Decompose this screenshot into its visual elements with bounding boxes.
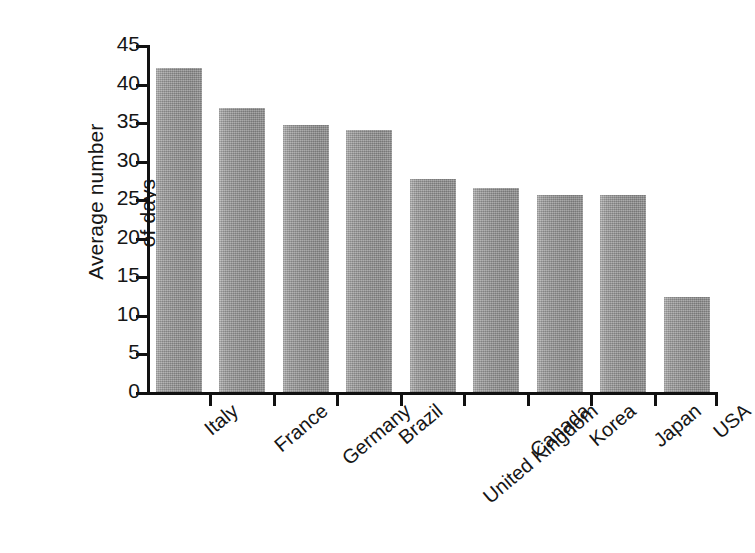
bar-chart: Average number of days 0 5 10 15 20 25 (0, 0, 755, 553)
bar-brazil (346, 130, 392, 392)
y-tick-label-20: 20 (117, 226, 140, 247)
bar-canada (473, 188, 519, 392)
bar-united-kingdom (410, 179, 456, 392)
y-axis-line (147, 45, 150, 392)
y-tick-label-40: 40 (117, 72, 140, 93)
y-tick-label-45: 45 (117, 33, 140, 54)
bar-germany (283, 125, 329, 392)
x-tick-mark-2 (273, 395, 276, 406)
bar-japan (600, 195, 646, 392)
y-axis-title: Average number of days (57, 73, 117, 353)
y-tick-label-25: 25 (117, 187, 140, 208)
bar-korea (537, 195, 583, 392)
x-tick-mark-8 (654, 395, 657, 406)
bar-italy (156, 68, 202, 392)
x-label-italy: Italy (201, 400, 242, 439)
x-tick-mark-6 (527, 395, 530, 406)
bar-france (219, 108, 265, 392)
x-tick-mark-5 (463, 395, 466, 406)
y-tick-label-30: 30 (117, 149, 140, 170)
x-tick-mark-1 (209, 395, 212, 406)
y-tick-label-0: 0 (128, 380, 140, 401)
y-tick-label-10: 10 (117, 303, 140, 324)
x-tick-mark-3 (336, 395, 339, 406)
x-label-usa: USA (710, 400, 754, 442)
y-tick-label-5: 5 (128, 341, 140, 362)
x-label-france: France (271, 400, 332, 455)
x-label-japan: Japan (650, 400, 705, 450)
x-tick-mark-9 (715, 395, 718, 406)
plot-area: 0 5 10 15 20 25 30 35 (147, 45, 718, 392)
y-tick-label-15: 15 (117, 264, 140, 285)
y-axis-title-line-1: Average number (84, 124, 107, 280)
x-axis-line (147, 392, 718, 395)
y-tick-label-35: 35 (117, 110, 140, 131)
bar-usa (664, 297, 710, 392)
